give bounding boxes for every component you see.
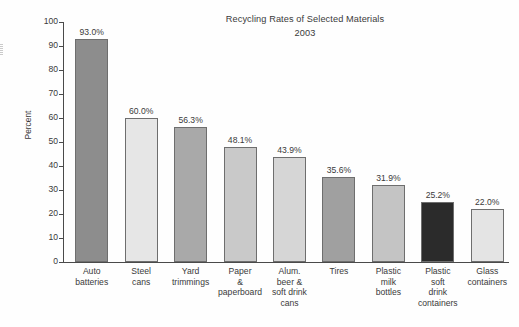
bar-value-label: 60.0% bbox=[129, 106, 153, 116]
y-tick-mark bbox=[59, 118, 63, 119]
category-label-line: Paper bbox=[215, 266, 264, 277]
x-axis-category-label: Glasscontainers bbox=[463, 266, 512, 287]
x-axis-category-label: Paper&paperboard bbox=[215, 266, 264, 298]
category-label-line: Tires bbox=[314, 266, 363, 277]
y-tick-mark bbox=[59, 214, 63, 215]
y-tick-mark bbox=[59, 46, 63, 47]
y-tick-mark bbox=[59, 22, 63, 23]
category-label-line: Glass bbox=[463, 266, 512, 277]
x-axis-category-label: Plasticmilkbottles bbox=[364, 266, 413, 298]
category-label-line: paperboard bbox=[215, 287, 264, 298]
x-axis-category-label: Autobatteries bbox=[67, 266, 116, 287]
bar: 60.0% bbox=[125, 118, 158, 262]
y-tick-mark bbox=[59, 94, 63, 95]
bar: 93.0% bbox=[75, 39, 108, 262]
bar: 22.0% bbox=[471, 209, 504, 262]
bar-value-label: 43.9% bbox=[277, 145, 301, 155]
category-label-line: Auto bbox=[67, 266, 116, 277]
bar-value-label: 35.6% bbox=[327, 165, 351, 175]
bar: 31.9% bbox=[372, 185, 405, 262]
category-label-line: Alum. bbox=[265, 266, 314, 277]
y-tick-label: 60 bbox=[36, 112, 58, 122]
category-label-line: milk bbox=[364, 277, 413, 288]
bar: 43.9% bbox=[273, 157, 306, 262]
y-tick-label: 10 bbox=[36, 232, 58, 242]
y-tick-label: 50 bbox=[36, 136, 58, 146]
y-tick-mark bbox=[59, 166, 63, 167]
bar-value-label: 31.9% bbox=[376, 173, 400, 183]
category-label-line: containers bbox=[413, 298, 462, 309]
bar-value-label: 93.0% bbox=[80, 27, 104, 37]
x-axis-category-label: Plasticsoftdrinkcontainers bbox=[413, 266, 462, 308]
category-label-line: beer & bbox=[265, 277, 314, 288]
bar-value-label: 56.3% bbox=[178, 115, 202, 125]
bar: 48.1% bbox=[224, 147, 257, 262]
y-tick-label: 40 bbox=[36, 160, 58, 170]
y-tick-label: 90 bbox=[36, 40, 58, 50]
category-label-line: Steel bbox=[116, 266, 165, 277]
y-axis-label: Percent bbox=[23, 95, 33, 155]
y-tick-label: 80 bbox=[36, 64, 58, 74]
bar-value-label: 25.2% bbox=[426, 190, 450, 200]
category-label-line: Yard bbox=[166, 266, 215, 277]
y-tick-label: 30 bbox=[36, 184, 58, 194]
y-tick-label: 0 bbox=[36, 256, 58, 266]
y-tick-mark bbox=[59, 142, 63, 143]
scan-edge-artifact bbox=[0, 44, 3, 56]
x-axis-category-label: Alum.beer &soft drinkcans bbox=[265, 266, 314, 308]
x-axis-category-label: Steelcans bbox=[116, 266, 165, 287]
category-label-line: cans bbox=[265, 298, 314, 309]
y-tick-label: 70 bbox=[36, 88, 58, 98]
y-tick-mark bbox=[59, 238, 63, 239]
category-label-line: cans bbox=[116, 277, 165, 288]
category-label-line: Plastic bbox=[413, 266, 462, 277]
y-tick-label: 100 bbox=[36, 16, 58, 26]
x-axis-category-label: Yardtrimmings bbox=[166, 266, 215, 287]
y-tick-mark bbox=[59, 190, 63, 191]
bar: 56.3% bbox=[174, 127, 207, 262]
category-label-line: soft bbox=[413, 277, 462, 288]
bar: 25.2% bbox=[421, 202, 454, 262]
y-axis-line bbox=[63, 22, 64, 263]
bar: 35.6% bbox=[322, 177, 355, 262]
category-label-line: soft drink bbox=[265, 287, 314, 298]
category-label-line: containers bbox=[463, 277, 512, 288]
x-axis-line bbox=[63, 262, 509, 263]
category-label-line: drink bbox=[413, 287, 462, 298]
x-axis-category-label: Tires bbox=[314, 266, 363, 277]
plot-area: 1009080706050403020100 93.0%60.0%56.3%48… bbox=[63, 22, 508, 262]
category-label-line: batteries bbox=[67, 277, 116, 288]
recycling-rates-bar-chart: Recycling Rates of Selected Materials 20… bbox=[0, 0, 519, 327]
category-label-line: Plastic bbox=[364, 266, 413, 277]
y-tick-mark bbox=[59, 262, 63, 263]
category-label-line: bottles bbox=[364, 287, 413, 298]
category-label-line: trimmings bbox=[166, 277, 215, 288]
bar-value-label: 48.1% bbox=[228, 135, 252, 145]
y-tick-mark bbox=[59, 70, 63, 71]
bar-value-label: 22.0% bbox=[475, 197, 499, 207]
category-label-line: & bbox=[215, 277, 264, 288]
y-tick-label: 20 bbox=[36, 208, 58, 218]
